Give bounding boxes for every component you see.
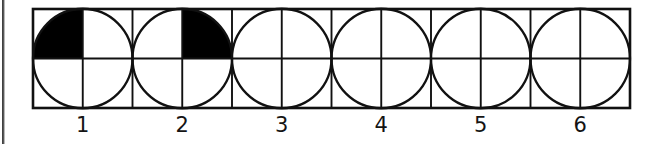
circle-label-2: 2 xyxy=(133,110,233,142)
circle-label-3: 3 xyxy=(232,110,332,142)
circle-label-6: 6 xyxy=(531,110,631,142)
grid-inner-lines xyxy=(33,9,630,108)
circle-label-4: 4 xyxy=(332,110,432,142)
circle-label-5: 5 xyxy=(431,110,531,142)
circle-labels-row: 1 2 3 4 5 6 xyxy=(33,110,630,142)
fraction-circles-figure: 1 2 3 4 5 6 xyxy=(0,0,653,144)
circle-label-1: 1 xyxy=(33,110,133,142)
